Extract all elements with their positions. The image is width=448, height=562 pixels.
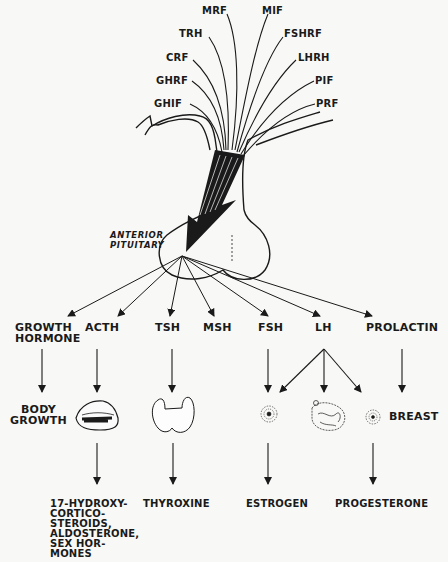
product-label-thyroxine: THYROXINE [143,499,210,509]
factor-label-mif: MIF [262,6,283,16]
ovary-icon [312,401,345,431]
product-label-progesterone: PROGESTERONE [335,499,428,509]
anterior-pituitary-label: ANTERIOR PITUITARY [110,230,164,250]
factor-label-lhrh: LHRH [298,53,330,63]
diagram-artwork [0,0,448,562]
factor-label-pif: PIF [315,76,333,86]
hormone-label-prolactin: PROLACTIN [366,322,438,333]
factor-label-ghrf: GHRF [156,76,188,86]
hormone-label-lh: LH [315,322,332,333]
factor-label-prf: PRF [316,99,338,109]
hormone-label-tsh: TSH [155,322,180,333]
fiber-bundle-arrow [186,150,245,252]
pituitary-hormone-diagram: MRF TRH CRF GHRF GHIF MIF FSHRF LHRH PIF… [0,0,448,562]
target-label-breast: BREAST [389,411,439,422]
target-arrows [42,349,402,392]
target-label-body-growth: BODY GROWTH [10,404,67,426]
factor-label-crf: CRF [166,53,188,63]
adrenal-gland-icon [76,401,118,430]
thyroid-gland-icon [152,397,194,432]
hormone-label-msh: MSH [203,322,232,333]
factor-label-fshrf: FSHRF [284,29,322,39]
hormone-release-arrows [68,256,372,316]
hormone-label-fsh: FSH [258,322,283,333]
factor-label-ghif: GHIF [154,99,182,109]
hormone-label-growth-hormone: GROWTH HORMONE [15,322,80,344]
hormone-label-acth: ACTH [85,322,119,333]
factor-label-trh: TRH [179,29,203,39]
corpus-luteum-icon [366,410,380,424]
ovarian-follicle-icon [261,406,277,422]
hypothalamus-outline [136,112,333,279]
product-arrows [97,443,373,484]
product-label-adrenal-steroids: 17-HYDROXY- CORTICO- STEROIDS, ALDOSTERO… [50,499,139,559]
product-label-estrogen: ESTROGEN [246,499,308,509]
factor-label-mrf: MRF [202,6,227,16]
